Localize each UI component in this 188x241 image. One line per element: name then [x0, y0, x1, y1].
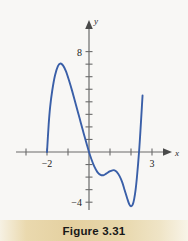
figure-caption-text: Figure 3.31	[63, 225, 126, 237]
x-tick-label-neg2: −2	[42, 158, 53, 169]
function-curve	[47, 64, 143, 207]
figure-container: −2 3 8 −4 x y Figure 3.31	[0, 0, 188, 241]
y-tick-label-8: 8	[77, 47, 82, 58]
y-axis-arrow-icon	[85, 20, 93, 29]
y-axis-label: y	[93, 16, 98, 26]
figure-caption-band: Figure 3.31	[0, 220, 188, 241]
x-axis-label: x	[174, 148, 179, 158]
plot-area: −2 3 8 −4 x y	[0, 0, 188, 220]
y-tick-label-neg4: −4	[71, 197, 82, 208]
axes-group	[16, 20, 172, 210]
graph-svg: −2 3 8 −4 x y	[0, 0, 188, 220]
axis-name-labels: x y	[93, 16, 179, 158]
x-tick-label-3: 3	[150, 158, 155, 169]
x-axis-arrow-icon	[163, 148, 172, 156]
tick-labels-group: −2 3 8 −4	[42, 47, 155, 209]
